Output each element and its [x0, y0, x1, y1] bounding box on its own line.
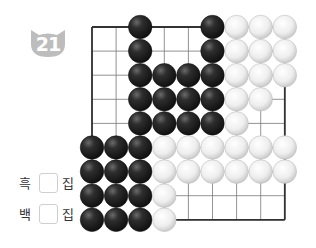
white-stone: [249, 39, 273, 63]
white-stone: [225, 88, 249, 112]
black-stone: [104, 184, 128, 208]
white-stone: [249, 88, 273, 112]
white-stone: [225, 136, 249, 160]
white-stone: [249, 160, 273, 184]
white-stone: [249, 136, 273, 160]
black-stone: [177, 88, 201, 112]
black-stone: [128, 160, 152, 184]
black-stone: [153, 88, 177, 112]
black-stone: [80, 208, 104, 232]
white-stone: [153, 208, 177, 232]
white-stone: [177, 160, 201, 184]
white-stone: [225, 39, 249, 63]
black-stone: [104, 136, 128, 160]
black-stone: [128, 112, 152, 135]
white-stone: [225, 112, 249, 135]
white-stone: [201, 136, 225, 160]
black-stone: [177, 112, 201, 135]
white-stone: [249, 63, 273, 87]
white-stone: [273, 15, 297, 39]
black-stone: [128, 63, 152, 87]
black-stone: [104, 160, 128, 184]
white-stone: [225, 15, 249, 39]
black-stone: [128, 136, 152, 160]
black-stone: [128, 208, 152, 232]
white-stone: [153, 136, 177, 160]
white-stone: [273, 136, 297, 160]
black-stone: [201, 112, 225, 135]
black-stone: [201, 15, 225, 39]
black-stone: [80, 184, 104, 208]
white-stone: [225, 63, 249, 87]
go-board[interactable]: [0, 0, 316, 248]
black-stone: [201, 88, 225, 112]
white-stone: [201, 160, 225, 184]
black-stone: [128, 15, 152, 39]
white-stone: [273, 63, 297, 87]
black-stone: [153, 112, 177, 135]
white-stone: [225, 160, 249, 184]
black-stone: [177, 63, 201, 87]
black-stone: [104, 208, 128, 232]
white-stone: [153, 184, 177, 208]
white-stone: [273, 39, 297, 63]
white-stone: [177, 136, 201, 160]
black-stone: [201, 63, 225, 87]
white-stone: [273, 160, 297, 184]
black-stone: [128, 39, 152, 63]
black-stone: [201, 39, 225, 63]
black-stone: [80, 136, 104, 160]
black-stone: [153, 63, 177, 87]
black-stone: [80, 160, 104, 184]
white-stone: [153, 160, 177, 184]
black-stone: [128, 184, 152, 208]
white-stone: [249, 15, 273, 39]
black-stone: [128, 88, 152, 112]
